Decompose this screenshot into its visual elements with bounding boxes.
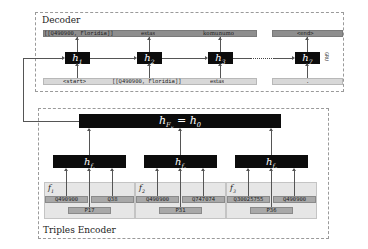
decoder-output-token: [[Q490900, Floridia]] [44, 30, 114, 37]
arrow-line [89, 169, 90, 207]
arrow-head-up [201, 168, 205, 171]
fact-subject: Q490900 [45, 196, 88, 203]
decoder-input-token: [[Q490900, Floridia]] [112, 78, 182, 85]
fact-object: Q490900 [273, 196, 316, 203]
decoder-output-token: estas [141, 30, 155, 37]
arrow-head-up [269, 168, 273, 171]
arrow-line [149, 64, 150, 78]
decoder-title: Decoder [42, 15, 80, 25]
arrow-head-up [218, 37, 222, 40]
fact-subject: Q30025755 [227, 196, 270, 203]
arrow-head-right [134, 56, 137, 60]
recurrent-arrow [233, 58, 250, 59]
arrow-head-up [75, 63, 79, 66]
fact-state-hf3: hf3 [235, 155, 308, 168]
fact-property: P36 [250, 207, 293, 214]
decoder-input-token: estas [210, 78, 224, 85]
fact-subject: Q490900 [136, 196, 179, 203]
fact-property: P17 [68, 207, 111, 214]
arrow-line [89, 129, 90, 155]
decoder-output-token: komunumo [203, 30, 234, 37]
fact-property: P31 [159, 207, 202, 214]
arrow-line [157, 169, 158, 196]
arrow-line [271, 169, 272, 207]
arrow-line [66, 169, 67, 196]
recurrent-arrow [162, 58, 205, 59]
arrow-line [248, 169, 249, 196]
arrow-head-up [305, 37, 309, 40]
arrow-head-up [147, 37, 151, 40]
arrow-line [271, 129, 272, 155]
recurrent-arrow [90, 58, 134, 59]
arrow-line [180, 169, 181, 207]
fact-label-f2: f2 [139, 183, 145, 194]
arrow-head-up [269, 128, 273, 131]
arrow-head-right [62, 56, 65, 60]
arrow-line [294, 169, 295, 196]
encoder-to-decoder-connector [23, 58, 62, 59]
encoder-to-decoder-connector [23, 58, 24, 122]
encoder-title: Triples Encoder [43, 225, 116, 235]
arrow-head-up [178, 128, 182, 131]
arrow-line [180, 129, 181, 155]
arrow-head-up [87, 168, 91, 171]
arrow-head-right [205, 56, 208, 60]
ellipsis-dots [250, 58, 274, 59]
arrow-head-up [178, 168, 182, 171]
arrow-head-up [292, 168, 296, 171]
arrow-head-up [305, 63, 309, 66]
fact-object: Q747074 [182, 196, 225, 203]
fact-state-hf1: hf1 [53, 155, 126, 168]
arrow-head-up [246, 168, 250, 171]
arrow-head-up [218, 63, 222, 66]
arrow-line [203, 169, 204, 196]
recurrent-arrow [274, 58, 292, 59]
arrow-line [307, 64, 308, 78]
arrow-head-up [64, 168, 68, 171]
fact-state-hf2: hf2 [144, 155, 217, 168]
arrow-head-right [292, 56, 295, 60]
arrow-line [220, 64, 221, 78]
arrow-line [77, 64, 78, 78]
fact-object: Q38 [91, 196, 134, 203]
fact-label-f3: f3 [230, 183, 236, 194]
decoder-input-token: <start> [63, 78, 86, 85]
arrow-head-up [75, 37, 79, 40]
arrow-head-up [155, 168, 159, 171]
arrow-head-up [87, 128, 91, 131]
decoder-input-token: . [306, 78, 309, 85]
arrow-head-up [110, 168, 114, 171]
decoder-output-token: <end> [297, 30, 314, 37]
arrow-line [112, 169, 113, 196]
fact-label-f1: f1 [48, 183, 54, 194]
encoder-final-state: hFE = h0 [79, 114, 281, 128]
gru-label: GRU [324, 52, 330, 61]
arrow-head-up [147, 63, 151, 66]
